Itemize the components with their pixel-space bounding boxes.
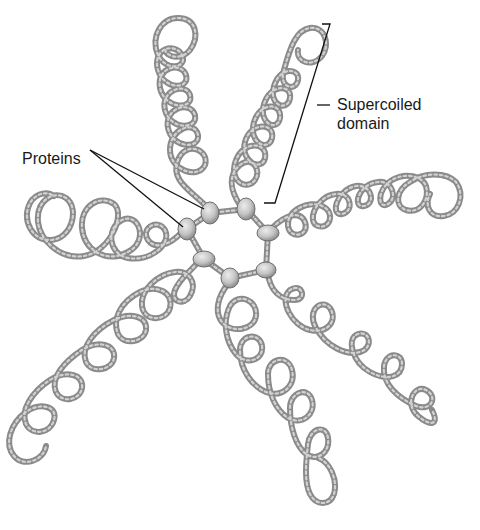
supercoiled-domain-label-line2: domain xyxy=(337,114,422,133)
dna-supercoil-diagram: .dna { fill:none; stroke:#8a8a8a; stroke… xyxy=(0,0,480,530)
dna-arm-right xyxy=(272,175,460,235)
protein-5 xyxy=(193,251,215,267)
dna-arm-bottom-left xyxy=(9,262,198,462)
diagram-canvas: .dna { fill:none; stroke:#8a8a8a; stroke… xyxy=(0,0,480,530)
dna-arm-top-left xyxy=(155,18,205,205)
protein-7 xyxy=(256,262,276,278)
protein-6 xyxy=(221,268,239,288)
dna-arm-left xyxy=(27,193,182,258)
supercoiled-domain-label-line1: Supercoiled xyxy=(337,95,422,114)
supercoiled-domain-label: Supercoiled domain xyxy=(337,95,422,133)
protein-3 xyxy=(257,225,279,241)
dna-arm-bottom-center xyxy=(218,284,335,503)
protein-scaffold-ring xyxy=(187,209,268,278)
protein-4 xyxy=(178,218,196,240)
protein-1 xyxy=(201,202,219,224)
protein-2 xyxy=(237,198,255,220)
proteins-label: Proteins xyxy=(22,149,81,168)
dna-arm-top-right xyxy=(232,28,326,205)
